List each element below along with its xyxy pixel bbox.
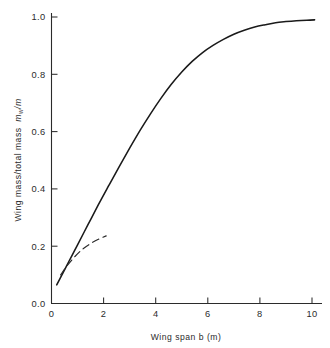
x-axis-title: Wing span b (m) [151,332,222,342]
x-axis-tick-labels: 0246810 [49,309,318,319]
x-tick-label: 2 [101,309,107,319]
x-tick-label: 10 [306,309,317,319]
data-series-group [57,20,315,285]
y-tick-label: 0.4 [31,184,45,194]
y-tick-label: 0.6 [31,127,45,137]
figure-container: 0.00.20.40.60.81.0 0246810 Wing span b (… [0,0,330,348]
x-tick-label: 0 [49,309,55,319]
y-axis-ticks [52,17,58,304]
chart-canvas: 0.00.20.40.60.81.0 0246810 Wing span b (… [0,0,330,348]
x-axis-ticks [52,298,313,304]
y-tick-label: 0.2 [31,242,45,252]
solid-curve [57,20,315,285]
y-tick-label: 0.0 [31,299,45,309]
y-axis-title-group: Wing mass/total mass mw/m [13,98,24,221]
x-tick-label: 8 [257,309,263,319]
y-axis-tick-labels: 0.00.20.40.60.81.0 [31,12,45,309]
y-axis-title: Wing mass/total mass mw/m [13,98,24,221]
y-tick-label: 0.8 [31,70,45,80]
x-tick-label: 6 [205,309,211,319]
dashed-curve [61,236,107,275]
x-tick-label: 4 [153,309,159,319]
y-tick-label: 1.0 [31,12,45,22]
